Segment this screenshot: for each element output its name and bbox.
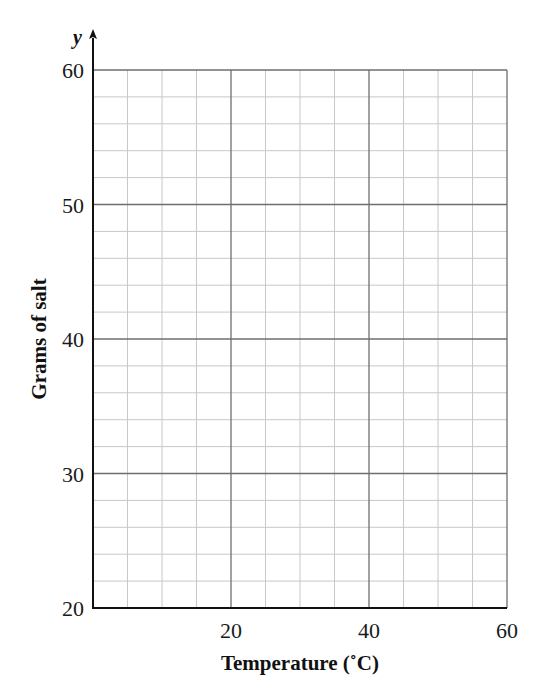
tick-labels: 2030405060204060 <box>62 58 518 643</box>
grid-chart: 2030405060204060 y Temperature (˚C) Gram… <box>0 0 545 698</box>
x-tick-label: 60 <box>496 618 518 643</box>
y-axis-label: Grams of salt <box>27 278 51 399</box>
y-axis-letter: y <box>71 26 82 49</box>
x-tick-label: 20 <box>220 618 242 643</box>
y-tick-label: 20 <box>62 596 84 621</box>
y-tick-label: 60 <box>62 58 84 83</box>
x-axis-label: Temperature (˚C) <box>221 651 379 675</box>
x-tick-label: 40 <box>358 618 380 643</box>
y-tick-label: 50 <box>62 193 84 218</box>
y-tick-label: 40 <box>62 327 84 352</box>
y-tick-label: 30 <box>62 462 84 487</box>
